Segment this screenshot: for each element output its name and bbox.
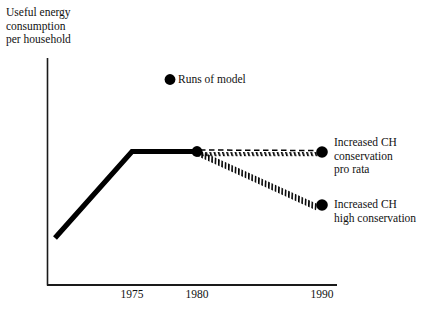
axes [47, 58, 337, 286]
x-tick-label-1980: 1980 [170, 288, 224, 300]
annotation-high-conservation: Increased CH high conservation [334, 198, 437, 225]
x-tick-label-1990: 1990 [295, 288, 349, 300]
series-pro-rata [200, 150, 320, 156]
high-conservation-hatch-band [197, 150, 319, 210]
x-tick-label-1975: 1975 [105, 288, 159, 300]
legend [165, 74, 176, 85]
y-axis-title: Useful energy consumption per household [6, 6, 116, 47]
pro-rata-hatch-band [200, 152, 320, 156]
pro-rata-dash-line [200, 150, 320, 151]
series-high-conservation [197, 150, 319, 210]
legend-marker-filled-circle-icon [165, 74, 176, 85]
marker-1980-model-run[interactable] [192, 146, 203, 157]
series-historic-trend [55, 152, 197, 239]
annotation-pro-rata: Increased CH conservation pro rata [334, 136, 434, 177]
marker-1990-high-conservation[interactable] [316, 199, 328, 211]
legend-label-runs-of-model: Runs of model [178, 73, 246, 87]
historic-trend-line [55, 152, 197, 239]
marker-1990-pro-rata[interactable] [316, 146, 328, 158]
chart-figure: Useful energy consumption per household … [0, 0, 437, 316]
